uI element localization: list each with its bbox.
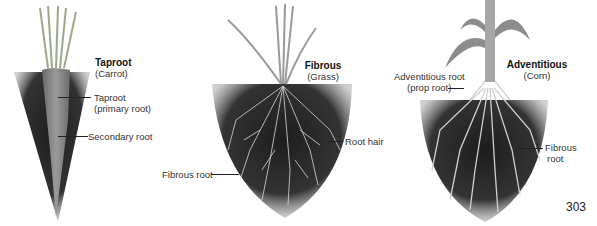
grass-illustration: [212, 4, 352, 218]
carrot-illustration: [14, 6, 90, 222]
leader-line: [519, 148, 543, 149]
label-taproot-primary-sub: (primary root): [94, 103, 151, 114]
leader-line: [58, 97, 91, 98]
taproot-title: Taproot: [95, 57, 131, 68]
label-root-hair: Root hair: [345, 136, 384, 147]
leader-line: [327, 141, 343, 142]
fibrous-subtitle: (Grass): [300, 71, 346, 82]
label-fibrous-root-grass: Fibrous root: [162, 169, 213, 180]
label-fibrous-root-corn: Fibrous: [545, 142, 577, 153]
label-secondary-root: Secondary root: [88, 131, 152, 142]
fibrous-title: Fibrous: [300, 60, 346, 71]
label-adventitious-root: Adventitious root: [394, 71, 465, 82]
root-systems-illustration: [0, 0, 597, 226]
leader-line: [211, 174, 239, 175]
adventitious-title: Adventitious: [502, 59, 572, 70]
adventitious-subtitle: (Corn): [502, 70, 572, 81]
label-fibrous-root-corn-sub: root: [547, 153, 563, 164]
leader-line: [58, 136, 88, 137]
corn-illustration: [420, 0, 548, 222]
label-taproot-primary: Taproot: [94, 92, 126, 103]
page-number: 303: [566, 200, 586, 214]
leader-line: [448, 88, 464, 89]
taproot-subtitle: (Carrot): [95, 68, 128, 79]
label-prop-root: (prop root): [407, 82, 451, 93]
